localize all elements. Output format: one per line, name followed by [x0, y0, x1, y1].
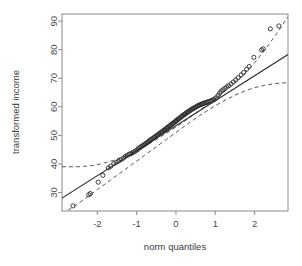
qq-plot-canvas: 30405060708090 -2-1012 norm quantiles tr…	[0, 0, 302, 266]
y-tick-label: 60	[49, 102, 60, 113]
x-tick-label: 1	[213, 218, 218, 229]
x-axis-title: norm quantiles	[144, 241, 207, 252]
x-tick-label: 0	[173, 218, 178, 229]
y-tick-label: 50	[49, 130, 60, 141]
y-tick-label: 70	[49, 73, 60, 84]
y-tick-label: 90	[49, 16, 60, 27]
y-tick-label: 40	[49, 159, 60, 170]
y-axis-title: transformed income	[10, 70, 21, 154]
x-tick-label: -1	[132, 218, 140, 229]
y-tick-label: 30	[49, 187, 60, 198]
y-tick-label: 80	[49, 44, 60, 55]
qq-plot-figure: 30405060708090 -2-1012 norm quantiles tr…	[0, 0, 302, 266]
x-tick-label: 2	[252, 218, 257, 229]
x-tick-label: -2	[93, 218, 101, 229]
